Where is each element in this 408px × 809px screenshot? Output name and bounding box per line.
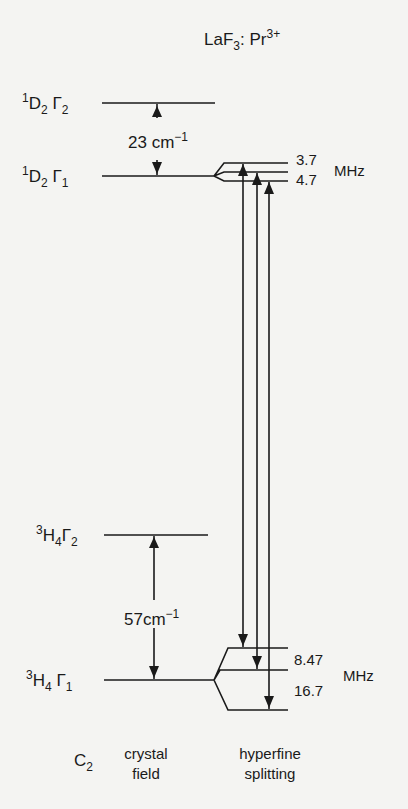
label-3h4-gamma2: 3H4Γ2 bbox=[36, 524, 78, 548]
lower-hyperfine-branch bbox=[214, 648, 288, 710]
diagram-title: LaF3: Pr3+ bbox=[204, 28, 280, 52]
lower-hyperfine-b: 16.7 bbox=[294, 683, 323, 698]
hyperfine-caption: hyperfinesplitting bbox=[228, 744, 312, 785]
upper-hyperfine-a: 3.7 bbox=[296, 152, 317, 167]
symmetry-label: C2 bbox=[74, 752, 93, 773]
lower-hyperfine-a: 8.47 bbox=[294, 652, 323, 667]
label-3h4-gamma1: 3H4 Γ1 bbox=[26, 669, 72, 693]
lower-crystal-field-splitting: 57cm−1 bbox=[124, 608, 179, 628]
upper-hyperfine-branch bbox=[214, 163, 288, 181]
label-1d2-gamma1: 1D2 Γ1 bbox=[22, 165, 68, 189]
upper-crystal-field-splitting: 23 cm−1 bbox=[128, 131, 188, 151]
upper-hyperfine-b: 4.7 bbox=[296, 172, 317, 187]
upper-hyperfine-unit: MHz bbox=[334, 163, 365, 178]
label-1d2-gamma2: 1D2 Γ2 bbox=[22, 92, 68, 116]
lower-hyperfine-unit: MHz bbox=[343, 668, 374, 683]
crystal-field-caption: crystalfield bbox=[114, 744, 178, 785]
